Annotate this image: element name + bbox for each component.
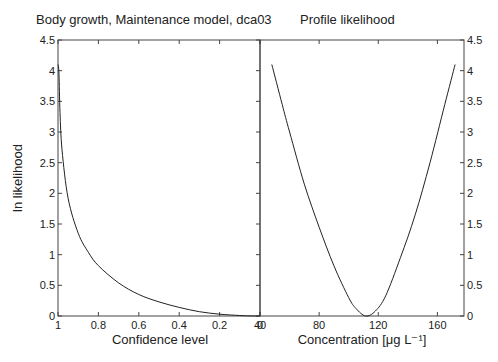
left-chart-title: Body growth, Maintenance model, dca03 [36, 12, 272, 27]
right-y-tick-label: 2 [467, 187, 473, 199]
right-chart-title: Profile likelihood [300, 12, 395, 27]
right-series-line [272, 65, 455, 317]
right-x-tick-label: 160 [428, 319, 446, 331]
y-axis-label: ln likelihood [10, 144, 25, 212]
right-y-tick-label: 4 [467, 65, 473, 77]
right-x-tick-label: 40 [254, 319, 266, 331]
left-x-axis-label: Confidence level [112, 332, 208, 347]
left-x-tick-label: 0.4 [172, 319, 187, 331]
left-y-tick-label: 2.5 [40, 157, 55, 169]
chart-svg: Body growth, Maintenance model, dca03 Pr… [0, 0, 498, 362]
right-y-tick-label: 3.5 [467, 95, 482, 107]
right-y-ticks: 00.511.522.533.544.5 [460, 34, 482, 322]
left-y-tick-label: 4 [49, 65, 55, 77]
left-y-tick-label: 0.5 [40, 279, 55, 291]
right-y-tick-label: 0 [467, 310, 473, 322]
left-x-tick-label: 0.6 [131, 319, 146, 331]
right-y-tick-label: 3 [467, 126, 473, 138]
left-series-line [58, 65, 260, 317]
right-x-tick-label: 120 [369, 319, 387, 331]
right-x-tick-label: 80 [313, 319, 325, 331]
left-y-tick-label: 3.5 [40, 95, 55, 107]
right-x-axis-label: Concentration [μg L⁻¹] [298, 332, 427, 347]
left-y-ticks: 00.511.522.533.544.5 [40, 34, 260, 322]
right-y-tick-label: 0.5 [467, 279, 482, 291]
right-y-tick-label: 2.5 [467, 157, 482, 169]
left-plot-frame [58, 40, 260, 316]
left-y-tick-label: 1 [49, 249, 55, 261]
left-x-tick-label: 1 [55, 319, 61, 331]
left-y-tick-label: 2 [49, 187, 55, 199]
left-x-tick-label: 0.8 [91, 319, 106, 331]
left-y-tick-label: 4.5 [40, 34, 55, 46]
left-y-tick-label: 1.5 [40, 218, 55, 230]
right-x-ticks: 4080120160 [254, 40, 447, 331]
right-plot-frame [260, 40, 464, 316]
left-y-tick-label: 3 [49, 126, 55, 138]
left-x-tick-label: 0.2 [212, 319, 227, 331]
right-y-tick-label: 1 [467, 249, 473, 261]
left-x-ticks: 10.80.60.40.20 [55, 40, 263, 331]
right-y-tick-label: 1.5 [467, 218, 482, 230]
right-y-tick-label: 4.5 [467, 34, 482, 46]
